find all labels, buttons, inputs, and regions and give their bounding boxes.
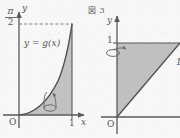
pi-numerator: π: [4, 7, 17, 16]
left-x-tick-label-1: 1: [69, 119, 75, 128]
right-edge-label: 1: [176, 58, 180, 67]
two-denominator: 2: [4, 18, 17, 27]
left-y-axis-label: y: [22, 4, 27, 13]
right-y-axis-label: y: [107, 16, 112, 25]
left-origin-label: O: [9, 118, 16, 127]
left-panel-graph: [3, 12, 84, 128]
left-y-tick-label-pi-over-2: π 2: [4, 7, 17, 27]
left-x-axis-label: x: [81, 118, 86, 127]
right-panel-graph: [101, 16, 180, 134]
left-curve-label: y = g(x): [24, 39, 60, 48]
right-origin-label: O: [107, 120, 114, 129]
figure-caption: 図 3: [88, 4, 105, 15]
right-y-tick-label-1: 1: [107, 36, 113, 45]
figure-container: 図 3 π 2 y y = g(x) O 1 x y 1 O 1: [0, 0, 180, 138]
figure-svg: [0, 0, 180, 138]
